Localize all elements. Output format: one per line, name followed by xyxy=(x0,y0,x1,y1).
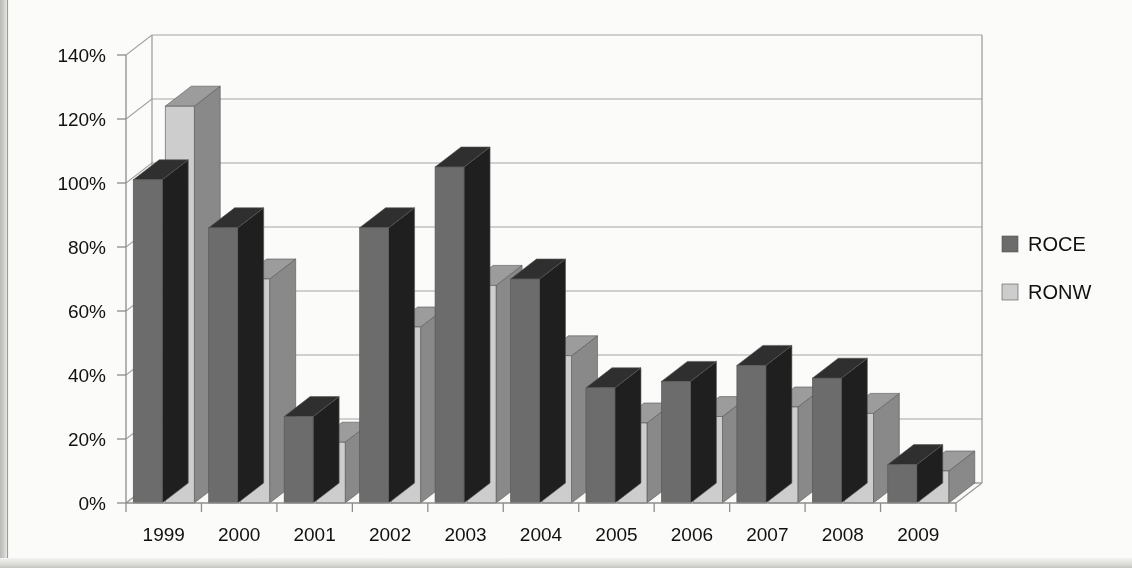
bar-front-face xyxy=(511,279,540,503)
y-tick-label: 60% xyxy=(68,301,106,322)
bar-roce-2000 xyxy=(209,208,264,503)
bars-layer xyxy=(133,86,975,503)
x-tick-label: 2002 xyxy=(369,524,411,545)
bar-front-face xyxy=(360,228,389,503)
x-tick-label: 2008 xyxy=(822,524,864,545)
bar-roce-2002 xyxy=(360,208,415,503)
bar-roce-2004 xyxy=(511,259,566,503)
y-tick-label: 80% xyxy=(68,237,106,258)
bar-front-face xyxy=(133,180,162,503)
bar-side-face xyxy=(238,208,264,503)
x-tick-label: 2007 xyxy=(746,524,788,545)
bar-side-face xyxy=(615,368,641,503)
x-axis xyxy=(126,503,956,512)
bar-front-face xyxy=(209,228,238,503)
legend-label: ROCE xyxy=(1028,233,1086,255)
x-tick-label: 2005 xyxy=(595,524,637,545)
y-tick-label: 0% xyxy=(79,493,107,514)
y-tick-label: 40% xyxy=(68,365,106,386)
legend-item-roce: ROCE xyxy=(1002,233,1086,255)
x-tick-label: 1999 xyxy=(143,524,185,545)
bar-side-face xyxy=(162,160,188,503)
bar-front-face xyxy=(435,167,464,503)
bar-roce-2007 xyxy=(737,345,792,503)
legend-item-ronw: RONW xyxy=(1002,281,1091,303)
dark-gray-swatch-icon xyxy=(1002,236,1018,252)
chart-legend: ROCERONW xyxy=(1002,233,1091,303)
bar-side-face xyxy=(690,361,716,503)
bar-side-face xyxy=(766,345,792,503)
y-axis-tick-labels: 0%20%40%60%80%100%120%140% xyxy=(57,45,106,514)
bar-front-face xyxy=(284,417,313,503)
roce-ronw-grouped-bar-chart: 0%20%40%60%80%100%120%140% 1999200020012… xyxy=(0,0,1132,568)
x-tick-label: 2001 xyxy=(293,524,335,545)
bar-roce-2006 xyxy=(661,361,716,503)
x-tick-label: 2009 xyxy=(897,524,939,545)
bar-side-face xyxy=(841,358,867,503)
light-gray-swatch-icon xyxy=(1002,284,1018,300)
y-tick-label: 120% xyxy=(57,109,106,130)
gridline-connector xyxy=(126,99,152,119)
bar-front-face xyxy=(586,388,615,503)
x-tick-label: 2004 xyxy=(520,524,563,545)
x-tick-label: 2003 xyxy=(444,524,486,545)
gridline-connector xyxy=(126,35,152,55)
legend-label: RONW xyxy=(1028,281,1091,303)
bar-roce-2005 xyxy=(586,368,641,503)
y-axis xyxy=(117,55,126,503)
bar-roce-2008 xyxy=(812,358,867,503)
bar-roce-1999 xyxy=(133,160,188,503)
bar-side-face xyxy=(540,259,566,503)
bar-side-face xyxy=(464,147,490,503)
x-tick-label: 2000 xyxy=(218,524,260,545)
chart-page: 0%20%40%60%80%100%120%140% 1999200020012… xyxy=(0,0,1132,568)
x-tick-label: 2006 xyxy=(671,524,713,545)
bar-front-face xyxy=(812,378,841,503)
x-axis-tick-labels: 1999200020012002200320042005200620072008… xyxy=(143,524,940,545)
bar-front-face xyxy=(737,365,766,503)
bar-roce-2003 xyxy=(435,147,490,503)
bar-front-face xyxy=(888,465,917,503)
bar-roce-2001 xyxy=(284,397,339,503)
y-tick-label: 20% xyxy=(68,429,106,450)
y-tick-label: 140% xyxy=(57,45,106,66)
bar-front-face xyxy=(661,381,690,503)
bar-side-face xyxy=(389,208,415,503)
y-tick-label: 100% xyxy=(57,173,106,194)
